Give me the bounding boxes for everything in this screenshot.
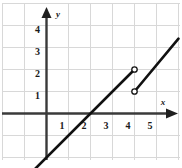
y-tick-label: 4 — [35, 24, 40, 35]
y-tick-label: 2 — [35, 68, 40, 79]
graph-container: y x 1 2 3 4 5 1 2 3 4 — [0, 0, 182, 168]
y-tick-label: 1 — [35, 90, 40, 101]
y-tick-label: 3 — [35, 46, 40, 57]
open-circle-point — [132, 89, 137, 94]
x-tick-label: 4 — [126, 120, 131, 131]
x-tick-label: 5 — [148, 120, 153, 131]
open-circle-point — [132, 67, 137, 72]
x-axis-label: x — [160, 97, 166, 107]
x-tick-label: 1 — [60, 120, 65, 131]
x-tick-label: 3 — [104, 120, 109, 131]
coordinate-plane-chart: y x 1 2 3 4 5 1 2 3 4 — [0, 0, 182, 168]
